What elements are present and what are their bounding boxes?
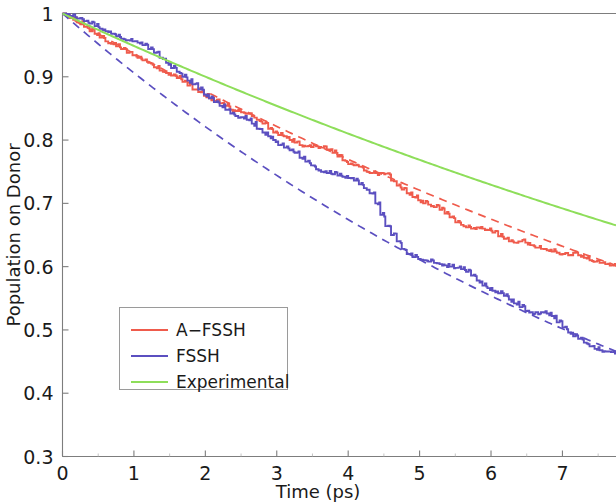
y-axis-ticks bbox=[63, 14, 69, 457]
y-axis-tick-labels: 0.30.40.50.60.70.80.91 bbox=[23, 3, 53, 468]
y-tick-label-0.8: 0.8 bbox=[23, 129, 53, 151]
y-tick-label-0.7: 0.7 bbox=[23, 192, 53, 214]
legend-label-0: A−FSSH bbox=[176, 320, 246, 340]
figure-container: 01234567 0.30.40.50.60.70.80.91 Time (ps… bbox=[0, 0, 616, 503]
legend-label-2: Experimental bbox=[176, 372, 289, 392]
y-axis-label: Population on Donor bbox=[3, 143, 24, 327]
x-axis-label: Time (ps) bbox=[275, 481, 361, 502]
y-tick-label-0.5: 0.5 bbox=[23, 319, 53, 341]
x-tick-label-0: 0 bbox=[56, 462, 68, 484]
x-tick-label-7: 7 bbox=[556, 462, 568, 484]
x-tick-label-6: 6 bbox=[485, 462, 497, 484]
y-tick-label-1: 1 bbox=[41, 3, 53, 25]
data-series-layer bbox=[63, 14, 616, 354]
chart-legend[interactable]: A−FSSHFSSHExperimental bbox=[120, 308, 290, 393]
y-tick-label-0.9: 0.9 bbox=[23, 66, 53, 88]
x-tick-label-1: 1 bbox=[128, 462, 140, 484]
series-fssh-fit bbox=[63, 14, 616, 352]
population-decay-chart: 01234567 0.30.40.50.60.70.80.91 Time (ps… bbox=[0, 0, 616, 503]
legend-label-1: FSSH bbox=[176, 346, 220, 366]
y-tick-label-0.6: 0.6 bbox=[23, 256, 53, 278]
y-tick-label-0.4: 0.4 bbox=[23, 382, 53, 404]
y-tick-label-0.3: 0.3 bbox=[23, 446, 53, 468]
x-tick-label-5: 5 bbox=[414, 462, 426, 484]
x-tick-label-2: 2 bbox=[199, 462, 211, 484]
series-fssh bbox=[63, 14, 616, 354]
